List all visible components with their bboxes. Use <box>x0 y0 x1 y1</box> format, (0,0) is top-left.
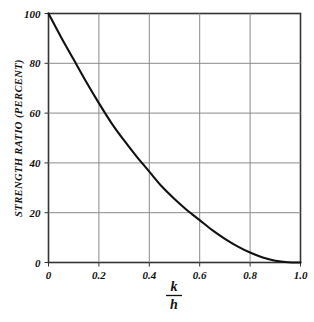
chart-figure: 00.20.40.60.81.0 020406080100 STRENGTH R… <box>0 0 314 322</box>
y-tick-label: 60 <box>30 107 42 119</box>
y-tick-label: 0 <box>35 257 41 269</box>
y-tick-label: 40 <box>29 157 42 169</box>
y-tick-label: 100 <box>24 8 41 20</box>
x-tick-label: 0.6 <box>193 269 207 281</box>
x-tick-label: 0.2 <box>92 269 106 281</box>
strength-ratio-chart: 00.20.40.60.81.0 020406080100 STRENGTH R… <box>0 0 314 322</box>
y-axis-title: STRENGTH RATIO (PERCENT) <box>13 59 25 217</box>
y-tick-label: 20 <box>29 207 42 219</box>
x-tick-label: 0.8 <box>243 269 257 281</box>
x-tick-label: 1.0 <box>294 269 308 281</box>
x-axis-title-denominator: h <box>170 297 178 312</box>
x-tick-label: 0.4 <box>142 269 156 281</box>
x-axis-title-numerator: k <box>171 279 178 294</box>
x-tick-label: 0 <box>46 269 52 281</box>
y-tick-label: 80 <box>30 57 42 69</box>
